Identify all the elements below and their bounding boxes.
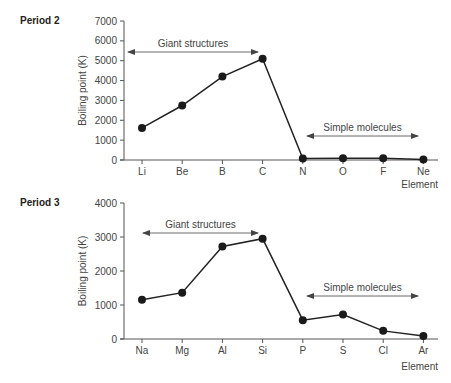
y-tick-label: 1000 [95,300,118,311]
x-tick-label: C [259,166,266,177]
data-point-Li [138,124,146,132]
data-point-Ne [419,155,427,163]
chart-period-2: Period 2Boiling point (K)010002000300040… [20,15,438,190]
y-tick-label: 4000 [95,75,118,86]
x-tick-label: Li [138,166,146,177]
y-tick-label: 2000 [95,115,118,126]
x-tick-label: S [340,345,347,356]
data-point-Al [218,243,226,251]
annotation-label: Simple molecules [323,282,401,293]
data-point-P [299,316,307,324]
data-point-Cl [379,327,387,335]
data-point-B [218,73,226,81]
y-tick-label: 5000 [95,55,118,66]
y-axis-label: Boiling point (K) [77,236,88,307]
x-tick-label: Mg [175,345,189,356]
data-line [142,59,423,160]
y-tick-label: 3000 [95,95,118,106]
y-tick-label: 4000 [95,198,118,209]
data-point-Ar [419,332,427,340]
x-tick-label: P [299,345,306,356]
y-tick-label: 6000 [95,35,118,46]
x-tick-label: Ne [417,166,430,177]
y-tick-label: 7000 [95,16,118,27]
x-axis-label: Element [401,361,438,372]
y-tick-label: 2000 [95,266,118,277]
x-tick-label: B [219,166,226,177]
x-tick-label: Na [136,345,149,356]
y-tick-label: 0 [111,155,117,166]
annotation-label: Simple molecules [323,122,401,133]
data-point-F [379,154,387,162]
x-tick-label: Ar [418,345,429,356]
chart-period-3: Period 3Boiling point (K)010002000300040… [20,197,438,372]
boiling-point-charts: Period 2Boiling point (K)010002000300040… [0,0,451,383]
data-point-Be [178,101,186,109]
x-tick-label: Si [258,345,267,356]
data-point-Mg [178,289,186,297]
y-tick-label: 1000 [95,135,118,146]
chart-title: Period 2 [20,15,60,26]
x-tick-label: Al [218,345,227,356]
y-tick-label: 3000 [95,232,118,243]
data-point-Na [138,296,146,304]
annotation-label: Giant structures [165,219,236,230]
x-tick-label: Cl [378,345,387,356]
x-axis-label: Element [401,179,438,190]
y-axis-label: Boiling point (K) [77,55,88,126]
x-tick-label: Be [176,166,189,177]
annotation-label: Giant structures [158,38,229,49]
x-tick-label: O [339,166,347,177]
data-point-C [259,55,267,63]
x-tick-label: F [380,166,386,177]
y-tick-label: 0 [111,334,117,345]
data-point-N [299,154,307,162]
x-tick-label: N [299,166,306,177]
chart-title: Period 3 [20,197,60,208]
data-point-S [339,311,347,319]
data-point-Si [259,235,267,243]
data-point-O [339,154,347,162]
